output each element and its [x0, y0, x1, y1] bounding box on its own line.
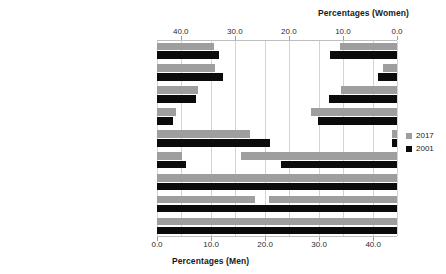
- bar-women-2017: [269, 196, 397, 204]
- bar-men-2001: [157, 139, 270, 147]
- bar-men-2001: [157, 205, 238, 213]
- bar-women-2017: [392, 130, 397, 138]
- bar-women-2001: [281, 161, 397, 169]
- women-tick-30.0: 30.0: [227, 27, 243, 36]
- bar-men-2001: [157, 73, 223, 81]
- bar-women-2001: [210, 183, 397, 191]
- bar-row: Sales & customer services: [157, 85, 397, 107]
- bar-row: Professional occupations: [157, 194, 397, 216]
- bar-men-2017: [157, 64, 215, 72]
- bar-men-2017: [157, 196, 255, 204]
- grouped-back-to-back-bar-chart: Percentages (Women) Percentages (Men) 40…: [0, 0, 446, 274]
- bar-women-2001: [392, 139, 397, 147]
- women-tick-20.0: 20.0: [281, 27, 297, 36]
- bar-women-2001: [378, 73, 397, 81]
- gridline: [397, 41, 398, 236]
- bar-row: Elementary occupations: [157, 41, 397, 63]
- bar-women-2017: [340, 43, 397, 51]
- men-axis-title: Percentages (Men): [172, 256, 249, 266]
- men-tick-10.0: 10.0: [203, 240, 219, 249]
- bar-men-2017: [157, 130, 250, 138]
- bar-men-2001: [157, 161, 186, 169]
- men-tick-20.0: 20.0: [257, 240, 273, 249]
- bar-men-2001: [157, 51, 219, 59]
- legend-swatch-2017: [406, 133, 412, 139]
- legend-item-2001: 2001: [406, 142, 434, 155]
- bar-women-2017: [224, 174, 397, 182]
- bar-women-2001: [318, 117, 397, 125]
- bar-row: Associate professional & technical: [157, 172, 397, 194]
- bar-women-2017: [241, 152, 397, 160]
- men-tick-40.0: 40.0: [365, 240, 381, 249]
- bar-men-2001: [157, 117, 173, 125]
- women-tick-40.0: 40.0: [173, 27, 189, 36]
- bar-women-2001: [330, 51, 397, 59]
- bar-men-2017: [157, 152, 182, 160]
- bar-row: Process, plant & machine operatives: [157, 63, 397, 85]
- legend-swatch-2001: [406, 146, 412, 152]
- men-tick-0.0: 0.0: [151, 240, 162, 249]
- women-axis-title: Percentages (Women): [318, 8, 409, 18]
- tick-mark-top: [397, 36, 398, 40]
- bar-women-2017: [383, 64, 397, 72]
- bar-women-2017: [197, 218, 397, 226]
- bar-women-2001: [237, 205, 397, 213]
- bar-row: Skilled trades: [157, 129, 397, 151]
- bar-row: Managers, directors & senior officials: [157, 216, 397, 238]
- legend-label-2017: 2017: [416, 131, 434, 140]
- legend-label-2001: 2001: [416, 144, 434, 153]
- men-tick-30.0: 30.0: [311, 240, 327, 249]
- bar-row: Administrative & secretarial: [157, 150, 397, 172]
- legend-item-2017: 2017: [406, 129, 434, 142]
- bar-men-2017: [157, 108, 176, 116]
- legend: 2017 2001: [406, 129, 434, 155]
- bar-men-2001: [157, 95, 196, 103]
- women-tick-10.0: 10.0: [335, 27, 351, 36]
- plot-area: Elementary occupationsProcess, plant & m…: [157, 40, 397, 237]
- women-tick-0.0: 0.0: [391, 27, 402, 36]
- bar-men-2017: [157, 43, 214, 51]
- bar-men-2017: [157, 86, 198, 94]
- bar-women-2001: [329, 95, 397, 103]
- bar-women-2001: [188, 227, 397, 235]
- bar-women-2017: [341, 86, 397, 94]
- bar-women-2017: [311, 108, 397, 116]
- bar-row: Caring, leisure & other services: [157, 107, 397, 129]
